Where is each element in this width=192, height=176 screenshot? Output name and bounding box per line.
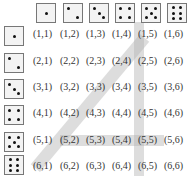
pip-icon — [179, 17, 182, 20]
outcome-cell: (2,2) — [60, 55, 79, 66]
outcome-cell: (2,1) — [33, 55, 52, 66]
pip-icon — [76, 16, 79, 19]
outcome-cell: (3,5) — [138, 81, 157, 92]
pip-icon — [13, 141, 16, 144]
pip-icon — [154, 7, 157, 10]
pip-icon — [8, 109, 11, 112]
outcome-cell: (3,2) — [60, 81, 79, 92]
outcome-cell: (1,4) — [112, 28, 131, 39]
outcome-cell: (5,1) — [33, 134, 52, 145]
outcome-cell: (1,3) — [86, 28, 105, 39]
pip-icon — [9, 158, 12, 161]
pip-icon — [8, 136, 11, 139]
pip-icon — [179, 12, 182, 15]
outcome-cell: (6,3) — [86, 160, 105, 171]
pip-icon — [17, 145, 20, 148]
pip-icon — [8, 83, 11, 86]
outcome-cell: (1,6) — [164, 28, 183, 39]
pip-icon — [67, 7, 70, 10]
pip-icon — [8, 145, 11, 148]
outcome-cell: (2,4) — [112, 55, 131, 66]
outcome-cell: (2,5) — [138, 55, 157, 66]
column-die-6 — [167, 3, 187, 23]
outcome-cell: (4,1) — [33, 107, 52, 118]
pip-icon — [9, 164, 12, 167]
row-die-3 — [4, 79, 24, 99]
pip-icon — [150, 12, 153, 15]
column-die-4 — [115, 3, 135, 23]
pip-icon — [13, 88, 16, 91]
column-die-1 — [36, 3, 56, 23]
pip-icon — [98, 12, 101, 15]
row-die-1 — [4, 26, 24, 46]
outcome-cell: (4,2) — [60, 107, 79, 118]
outcome-cell: (4,4) — [112, 107, 131, 118]
outcome-cell: (1,2) — [60, 28, 79, 39]
outcome-cell: (2,6) — [164, 55, 183, 66]
row-die-6 — [4, 155, 24, 175]
outcome-cell: (6,5) — [138, 160, 157, 171]
pip-icon — [16, 158, 19, 161]
outcome-cell: (5,4) — [112, 134, 131, 145]
outcome-cell: (3,6) — [164, 81, 183, 92]
row-die-4 — [4, 105, 24, 125]
outcome-cell: (4,3) — [86, 107, 105, 118]
pip-icon — [17, 109, 20, 112]
column-die-2 — [63, 3, 83, 23]
pip-icon — [8, 118, 11, 121]
pip-icon — [17, 66, 20, 69]
outcome-cell: (5,3) — [86, 134, 105, 145]
outcome-cell: (3,3) — [86, 81, 105, 92]
column-die-5 — [141, 3, 161, 23]
pip-icon — [45, 12, 48, 15]
pip-icon — [17, 92, 20, 95]
pip-icon — [145, 16, 148, 19]
pip-icon — [172, 6, 175, 9]
pip-icon — [9, 169, 12, 172]
pip-icon — [172, 12, 175, 15]
outcome-cell: (4,6) — [164, 107, 183, 118]
outcome-cell: (6,6) — [164, 160, 183, 171]
pip-icon — [128, 16, 131, 19]
outcome-cell: (1,1) — [33, 28, 52, 39]
pip-icon — [13, 35, 16, 38]
row-die-5 — [4, 132, 24, 152]
pip-icon — [154, 16, 157, 19]
pip-icon — [16, 169, 19, 172]
pip-icon — [172, 17, 175, 20]
pip-icon — [16, 164, 19, 167]
outcome-cell: (6,4) — [112, 160, 131, 171]
outcome-cell: (3,1) — [33, 81, 52, 92]
pip-icon — [119, 7, 122, 10]
pip-icon — [102, 16, 105, 19]
outcome-cell: (3,4) — [112, 81, 131, 92]
column-die-3 — [89, 3, 109, 23]
pip-icon — [8, 57, 11, 60]
outcome-cell: (1,5) — [138, 28, 157, 39]
outcome-cell: (2,3) — [86, 55, 105, 66]
outcome-cell: (6,2) — [60, 160, 79, 171]
outcome-cell: (4,5) — [138, 107, 157, 118]
pip-icon — [17, 118, 20, 121]
row-die-2 — [4, 53, 24, 73]
outcome-cell: (5,6) — [164, 134, 183, 145]
pip-icon — [145, 7, 148, 10]
pip-icon — [128, 7, 131, 10]
pip-icon — [179, 6, 182, 9]
outcome-cell: (5,2) — [60, 134, 79, 145]
pip-icon — [119, 16, 122, 19]
pip-icon — [93, 7, 96, 10]
outcome-cell: (5,5) — [138, 134, 157, 145]
outcome-cell: (6,1) — [33, 160, 52, 171]
pip-icon — [17, 136, 20, 139]
